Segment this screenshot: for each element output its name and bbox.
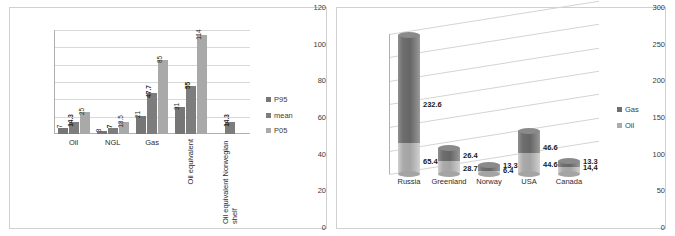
bar-value-label: 14.3 [224, 114, 231, 127]
y-tick: 200 [652, 78, 665, 86]
right-chart-x-axis: Russia Greenland Norway USA Canada [389, 178, 589, 186]
bar-group-ngl: 3 7 13.5 [93, 30, 132, 134]
left-chart-legend: P95 mean P05 [266, 96, 293, 135]
bar-value-label: 7 [106, 125, 113, 129]
legend-item-mean[interactable]: mean [266, 112, 293, 120]
cylinder-norway-oil[interactable]: 6.4 [478, 171, 500, 174]
bar-ngl-p05[interactable]: 13.5 [119, 122, 129, 134]
left-chart-x-axis: Oil NGL Gas Oil equivalent Oil equivalen… [54, 136, 250, 224]
bar-group-gas: 21 47.7 85 [132, 30, 171, 134]
cylinder-cap [518, 171, 540, 177]
legend-label: Oil [625, 122, 634, 130]
legend-item-p95[interactable]: P95 [266, 96, 293, 104]
stack-usa: 46.6 44.6 [509, 34, 549, 174]
bar-oileq-p95[interactable]: 31 [175, 107, 185, 134]
x-tick-usa: USA [509, 178, 549, 186]
legend-swatch-icon [266, 128, 271, 133]
bar-oileq-mean[interactable]: 55 [186, 86, 196, 134]
bar-value-label: 85 [157, 56, 164, 63]
y-tick: 80 [318, 78, 326, 86]
y-tick: 20 [318, 188, 326, 196]
bar-value-label: 47.7 [146, 85, 153, 98]
y-tick: 50 [657, 188, 665, 196]
x-tick-canada: Canada [549, 178, 589, 186]
left-chart-panel: 120 100 80 60 40 20 0 7 [9, 7, 327, 229]
gridline [389, 1, 599, 35]
x-tick-oil-equivalent: Oil equivalent [172, 136, 211, 224]
x-tick-greenland: Greenland [429, 178, 469, 186]
stack-greenland: 26.4 28.7 [429, 34, 469, 174]
bar-gas-p95[interactable]: 21 [136, 116, 146, 134]
y-tick: 100 [313, 41, 326, 49]
left-chart-y-axis: 120 100 80 60 40 20 0 [10, 8, 42, 112]
two-chart-figure: 120 100 80 60 40 20 0 7 [0, 0, 675, 236]
y-tick: 250 [652, 41, 665, 49]
cylinder-cap [478, 162, 500, 168]
stack-canada: 13.3 14,4 [549, 34, 589, 174]
cylinder-greenland-oil[interactable]: 28.7 [438, 161, 460, 174]
bar-oileq-ns-mean[interactable]: 14.3 [225, 122, 235, 134]
cylinder-cap [438, 145, 460, 151]
legend-item-p05[interactable]: P05 [266, 127, 293, 135]
cylinder-russia-gas[interactable]: 232.6 [398, 35, 420, 144]
y-tick: 150 [652, 114, 665, 122]
bar-value-label: 3 [95, 129, 102, 133]
y-tick: 40 [318, 151, 326, 159]
bar-oil-p95[interactable]: 7 [58, 128, 68, 134]
bar-value-label: 55 [185, 82, 192, 89]
y-tick: 0 [661, 224, 665, 232]
legend-item-oil[interactable]: Oil [617, 122, 639, 130]
bar-oil-p05[interactable]: 25 [80, 112, 90, 134]
right-chart-panel: 300 250 200 150 100 50 0 232.6 [336, 7, 666, 229]
legend-swatch-icon [617, 123, 622, 128]
cylinder-usa-oil[interactable]: 44.6 [518, 153, 540, 174]
cylinder-cap [518, 128, 540, 134]
cylinder-cap [398, 171, 420, 177]
x-tick-oil: Oil [54, 136, 93, 224]
bar-gas-mean[interactable]: 47.7 [147, 93, 157, 134]
x-tick-gas: Gas [132, 136, 171, 224]
bar-gas-p05[interactable]: 85 [158, 60, 168, 134]
right-chart-y-axis: 300 250 200 150 100 50 0 [337, 8, 371, 148]
legend-swatch-icon [266, 113, 271, 118]
bar-value-label: 14.3 [67, 114, 74, 127]
x-tick-label: NGL [105, 139, 120, 148]
x-tick-label: Oil equivalent [187, 139, 196, 184]
stack-norway: 13.3 6.4 [469, 34, 509, 174]
legend-swatch-icon [617, 107, 622, 112]
bar-group-oil-equivalent: 31 55 114 [172, 30, 211, 134]
bar-ngl-mean[interactable]: 7 [108, 128, 118, 134]
bar-value-label: 114 [196, 29, 203, 39]
left-chart-plot-area: 7 14.3 25 3 7 [54, 30, 250, 134]
bar-value-label: 7 [56, 125, 63, 129]
y-tick: 120 [313, 4, 326, 12]
x-tick-norway: Norway [469, 178, 509, 186]
cylinder-russia-oil[interactable]: 65.4 [398, 143, 420, 174]
cylinder-greenland-gas[interactable]: 26.4 [438, 148, 460, 160]
bar-ngl-p95[interactable]: 3 [97, 131, 107, 134]
cylinder-usa-gas[interactable]: 46.6 [518, 131, 540, 153]
bar-group-oil-equivalent-norwegian-shelf: 14.3 [211, 30, 250, 134]
bar-oileq-p05[interactable]: 114 [197, 35, 207, 134]
legend-label: mean [274, 112, 293, 120]
bar-oil-mean[interactable]: 14.3 [69, 122, 79, 134]
bar-value-label: 13.5 [117, 115, 124, 128]
bar-value-label: 25 [78, 108, 85, 115]
cylinder-cap [558, 171, 580, 177]
x-tick-russia: Russia [389, 178, 429, 186]
y-tick: 60 [318, 114, 326, 122]
cylinder-cap [558, 158, 580, 164]
bar-value-label: 14,4 [583, 164, 598, 172]
cylinder-canada-oil[interactable]: 14,4 [558, 167, 580, 174]
y-tick: 100 [652, 151, 665, 159]
legend-swatch-icon [266, 97, 271, 102]
x-tick-ngl: NGL [93, 136, 132, 224]
legend-item-gas[interactable]: Gas [617, 106, 639, 114]
legend-label: P95 [274, 96, 287, 104]
x-tick-label: Oil [69, 139, 78, 148]
y-tick: 300 [652, 4, 665, 12]
right-chart-plot-area: 232.6 65.4 26.4 28.7 [389, 34, 589, 174]
bar-value-label: 31 [174, 103, 181, 110]
stack-russia: 232.6 65.4 [389, 34, 429, 174]
bar-group-oil: 7 14.3 25 [54, 30, 93, 134]
